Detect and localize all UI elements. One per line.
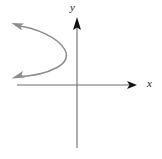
- coordinate-plane-figure: y x: [0, 0, 162, 159]
- figure-canvas: [0, 0, 162, 159]
- y-axis-label: y: [70, 2, 75, 13]
- curve-lower-arrow-icon: [12, 71, 26, 79]
- parabola-curve: [16, 26, 67, 77]
- x-axis-label: x: [147, 78, 152, 89]
